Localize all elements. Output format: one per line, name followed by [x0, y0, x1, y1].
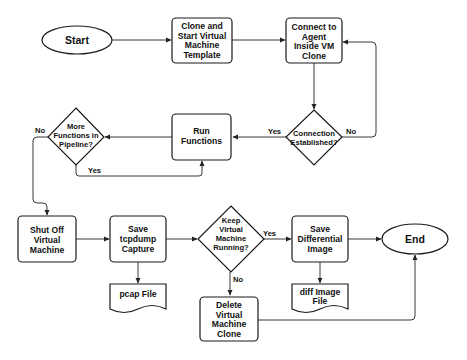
node-label: Machine	[185, 40, 220, 50]
node-label: Machine	[30, 245, 65, 255]
edge-label-connected-no: No	[346, 127, 356, 136]
node-label: Running?	[213, 243, 249, 252]
node-label: Start Virtual	[178, 31, 227, 41]
node-label: Pipeline?	[59, 140, 93, 149]
node-label: Virtual	[219, 225, 243, 234]
node-label: Start	[65, 34, 89, 46]
node-run: Run Functions	[172, 114, 231, 160]
node-connect: Connect to Agent Inside VM Clone	[286, 18, 342, 63]
node-label: Differential	[298, 234, 343, 244]
node-label: Machine	[212, 319, 247, 329]
flowchart-canvas: No Yes Yes No Yes No Start Clone and Sta…	[0, 0, 467, 360]
node-diffsave: Save Differential Image	[292, 216, 348, 262]
node-label: Machine	[216, 234, 246, 243]
node-label: Connect to	[292, 22, 337, 32]
node-label: Run	[193, 126, 210, 136]
edge-label-keep-no: No	[233, 275, 243, 284]
edge-label-connected-yes: Yes	[268, 127, 281, 136]
node-label: Functions	[181, 136, 222, 146]
node-tcpdump: Save tcpdump Capture	[110, 216, 166, 262]
node-label: Clone	[302, 51, 326, 61]
node-shutoff: Shut Off Virtual Machine	[18, 216, 76, 262]
node-clone: Clone and Start Virtual Machine Template	[172, 18, 232, 63]
node-end: End	[382, 224, 448, 254]
node-label: Delete	[216, 300, 242, 310]
node-delete: Delete Virtual Machine Clone	[200, 297, 258, 341]
edge-label-more-yes: Yes	[88, 166, 101, 175]
node-keep: Keep Virtual Machine Running?	[198, 206, 264, 272]
node-label: Capture	[122, 244, 155, 254]
node-label: Image	[308, 244, 333, 254]
edge-label-keep-yes: Yes	[263, 229, 276, 238]
edge-label-more-no: No	[35, 126, 45, 135]
node-label: Connection	[293, 129, 335, 138]
edge-connected-no-connect	[342, 42, 376, 137]
node-label: Agent	[302, 32, 326, 42]
node-label: Template	[183, 50, 220, 60]
node-connected: Connection Established?	[286, 110, 342, 165]
node-label: File	[313, 296, 328, 306]
node-label: Clone and	[181, 21, 223, 31]
node-difffile: diff Image File	[292, 284, 348, 313]
node-label: Established?	[290, 138, 338, 147]
edge-more-no-shutoff	[33, 137, 48, 215]
node-label: Virtual	[216, 310, 243, 320]
node-pcap: pcap File	[110, 284, 166, 313]
node-label: Inside VM	[294, 41, 334, 51]
edges	[33, 40, 415, 320]
node-label: Save	[310, 224, 330, 234]
node-label: Shut Off	[30, 225, 64, 235]
node-label: Keep	[222, 216, 241, 225]
node-label: tcpdump	[120, 234, 156, 244]
node-label: End	[405, 233, 425, 245]
node-start: Start	[42, 26, 112, 54]
node-label: Functions in	[53, 131, 98, 140]
node-label: Save	[128, 224, 148, 234]
node-label: Virtual	[34, 235, 61, 245]
node-label: Clone	[217, 329, 241, 339]
node-more: More Functions in Pipeline?	[48, 108, 104, 165]
node-label: More	[67, 122, 85, 131]
node-label: pcap File	[119, 289, 156, 299]
